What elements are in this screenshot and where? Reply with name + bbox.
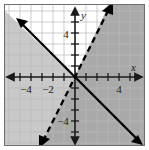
x-tick-label-neg2: −2 xyxy=(42,83,54,95)
y-axis-arrow-up xyxy=(72,8,79,15)
graph-image: y x −4 −2 4 4 −4 xyxy=(0,0,149,150)
graph-frame: y x −4 −2 4 4 −4 xyxy=(4,4,145,146)
y-tick-label-neg4: −4 xyxy=(57,115,69,127)
y-tick-label-pos4: 4 xyxy=(63,28,69,40)
coordinate-plane-svg: y x −4 −2 4 4 −4 xyxy=(5,5,144,145)
x-tick-label-neg4: −4 xyxy=(20,83,32,95)
x-axis-label: x xyxy=(130,61,136,73)
x-tick-label-pos4: 4 xyxy=(116,83,122,95)
y-axis-label: y xyxy=(80,9,86,21)
